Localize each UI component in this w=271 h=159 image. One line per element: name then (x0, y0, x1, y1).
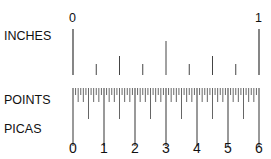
pica-number-label: 3 (162, 140, 170, 156)
pica-number-label: 6 (255, 140, 263, 156)
ruler-diagram (0, 0, 271, 159)
pica-number-label: 5 (224, 140, 232, 156)
pica-number-label: 1 (100, 140, 108, 156)
pica-number-label: 4 (193, 140, 201, 156)
pica-number-label: 0 (69, 140, 77, 156)
pica-number-label: 2 (131, 140, 139, 156)
